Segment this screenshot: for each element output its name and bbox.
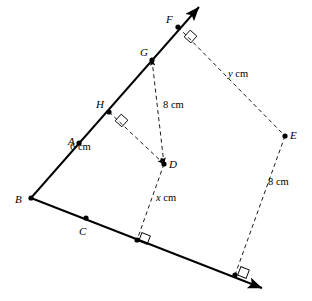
variable-glyph: x [156,192,161,203]
point-label-h: H [96,99,104,110]
diagram-canvas: ABCDEFGH 8 cm6 cmx cmy cm8 cm [0,0,312,301]
label-y-cm: y cm [228,69,248,80]
segment-E-to-base-foot [235,136,285,275]
point-dot-c [83,215,88,220]
right-angle-at-H [115,114,128,127]
point-dot-g [149,57,154,62]
point-label-c: C [79,226,86,237]
point-label-d: D [169,159,177,170]
ray-B-to-bottom-right-arrow [31,198,262,288]
point-label-f: F [166,14,173,25]
point-dot-p2 [232,272,237,277]
segment-H-to-D [109,112,164,164]
label-8cm-GD: 8 cm [163,100,184,111]
geometry-figure [0,0,312,301]
point-label-g: G [140,47,148,58]
point-dot-h [106,109,111,114]
right-angle-at-base-foot-E [238,267,250,279]
point-dot-f [175,24,180,29]
point-dot-d [161,161,166,166]
label-x-cm: x cm [156,193,176,204]
point-dot-b [28,195,33,200]
variable-glyph: y [228,68,233,79]
point-label-e: E [290,130,297,141]
right-angle-at-F [184,30,197,43]
segment-G-to-D [152,60,164,164]
point-dots-group [28,24,287,277]
point-label-b: B [15,194,22,205]
point-dot-p1 [134,237,139,242]
label-6cm-HD: 6 cm [70,142,91,153]
segment-F-to-E [178,27,285,136]
point-dot-e [282,133,287,138]
label-8cm-E: 8 cm [268,177,289,188]
